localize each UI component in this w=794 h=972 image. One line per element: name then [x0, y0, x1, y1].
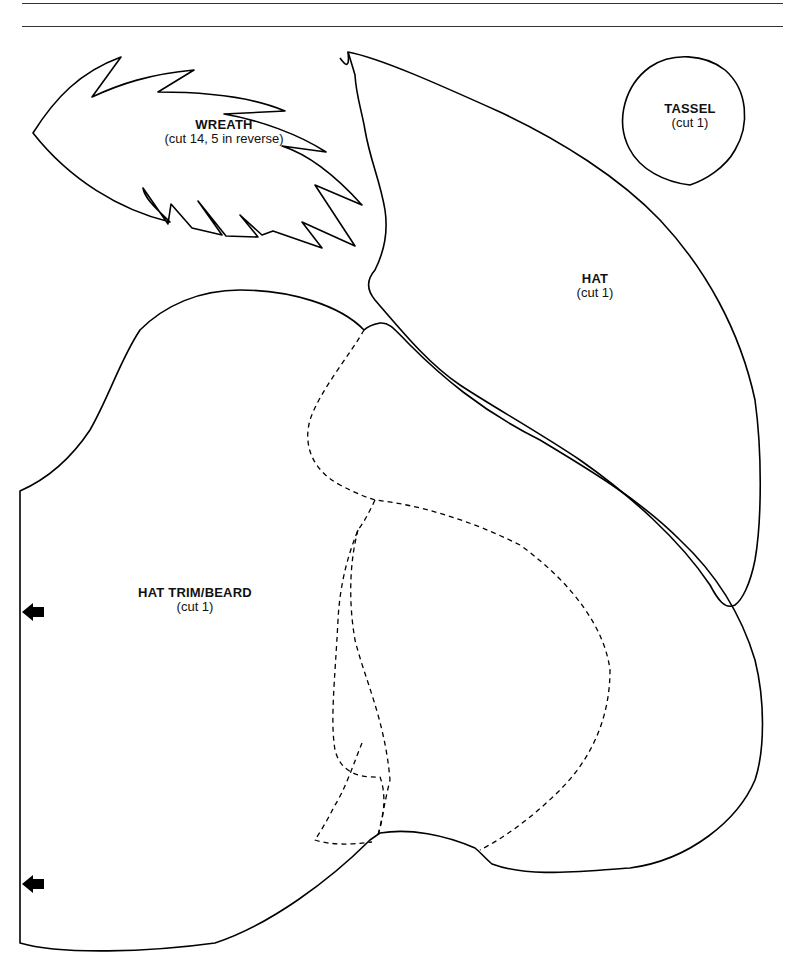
hat-notch: [340, 52, 348, 64]
hat-trim-beard-outline: [20, 290, 763, 951]
beard-mustache-dashed-line: [308, 330, 610, 850]
tassel-title: TASSEL: [640, 102, 740, 116]
hat-title: HAT: [545, 272, 645, 286]
wreath-title: WREATH: [144, 118, 304, 132]
hat-label: HAT (cut 1): [545, 272, 645, 300]
beard-tip-dashed-line: [315, 743, 372, 844]
tassel-label: TASSEL (cut 1): [640, 102, 740, 130]
wreath-label: WREATH (cut 14, 5 in reverse): [144, 118, 304, 146]
hat-trim-beard-label: HAT TRIM/BEARD (cut 1): [120, 586, 270, 614]
fold-arrow-icon: [22, 603, 44, 621]
hat-instruction: (cut 1): [545, 286, 645, 300]
pattern-page: WREATH (cut 14, 5 in reverse) TASSEL (cu…: [0, 0, 794, 972]
pattern-outlines: [0, 0, 794, 972]
fold-arrow-icon: [22, 875, 44, 893]
tassel-instruction: (cut 1): [640, 116, 740, 130]
hat-trim-beard-instruction: (cut 1): [120, 600, 270, 614]
hat-outline: [348, 52, 760, 606]
beard-left-dashed-line: [333, 500, 384, 835]
wreath-instruction: (cut 14, 5 in reverse): [144, 132, 304, 146]
wreath-outline: [33, 57, 362, 248]
hat-trim-beard-title: HAT TRIM/BEARD: [120, 586, 270, 600]
beard-inner-dashed-line: [351, 530, 390, 835]
